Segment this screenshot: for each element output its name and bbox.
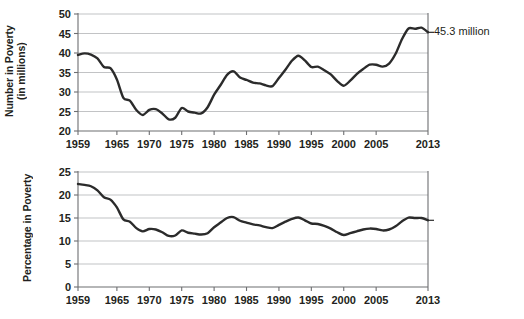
data-series-line [78,28,428,120]
x-tick-label: 1980 [202,138,226,150]
x-tick-label: 1990 [267,294,291,306]
x-tick-label: 1995 [299,294,323,306]
y-tick-label: 25 [59,106,71,118]
y-tick-label: 0 [65,281,71,293]
y-tick-label: 20 [59,189,71,201]
y-tick-label: 45 [59,28,71,40]
chart-panel-number-in-poverty: Number in Poverty (in millions) 20253035… [0,0,524,160]
y-tick-label: 35 [59,67,71,79]
x-tick-label: 1970 [137,138,161,150]
y-axis-ticks: 20253035404550 [59,8,78,137]
y-tick-label: 15 [59,212,71,224]
x-tick-label: 2005 [364,294,388,306]
x-tick-label: 1985 [234,138,258,150]
x-tick-label: 1970 [137,294,161,306]
gridlines [78,14,428,131]
x-tick-label: 1975 [169,294,193,306]
y-axis-title-top: Number in Poverty (in millions) [4,8,30,134]
x-tick-label: 2005 [364,138,388,150]
y-tick-label: 50 [59,8,71,20]
y-axis-ticks: 0510152025 [59,166,78,293]
x-tick-label: 1959 [66,294,90,306]
callout-label-top: 45.3 million [434,25,490,37]
y-tick-label: 10 [59,235,71,247]
x-axis-ticks: 1959196519701975198019851990199520002005… [66,131,440,150]
x-tick-label: 1965 [105,294,129,306]
y-axis-title-bottom: Percentage in Poverty [22,164,36,292]
x-tick-label: 1985 [234,294,258,306]
y-tick-label: 40 [59,47,71,59]
x-tick-label: 2000 [331,294,355,306]
y-tick-label: 20 [59,125,71,137]
x-tick-label: 1980 [202,294,226,306]
chart-canvas-top: 2025303540455019591965197019751980198519… [0,0,524,160]
x-tick-label: 1990 [267,138,291,150]
poverty-charts-figure: Number in Poverty (in millions) 20253035… [0,0,524,319]
y-tick-label: 25 [59,166,71,178]
y-tick-label: 30 [59,86,71,98]
chart-panel-percentage-in-poverty: Percentage in Poverty 051015202519591965… [0,158,524,316]
x-tick-label: 1959 [66,138,90,150]
x-axis-ticks: 1959196519701975198019851990199520002005… [66,287,440,306]
data-series-line [78,184,428,236]
x-tick-label: 1965 [105,138,129,150]
x-tick-label: 2013 [416,294,440,306]
chart-canvas-bottom: 0510152025195919651970197519801985199019… [0,158,524,316]
x-tick-label: 2013 [416,138,440,150]
x-tick-label: 1995 [299,138,323,150]
x-tick-label: 1975 [169,138,193,150]
y-tick-label: 5 [65,258,71,270]
x-tick-label: 2000 [331,138,355,150]
